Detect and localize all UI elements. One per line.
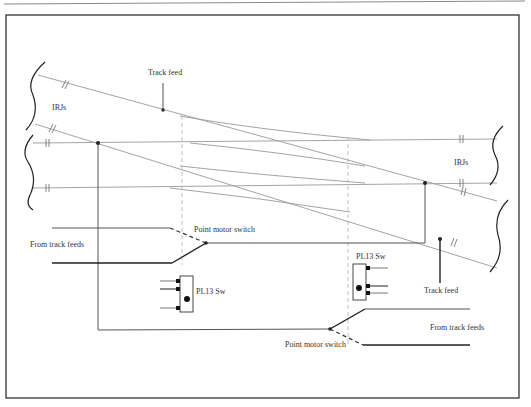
irjs-right-label: IRJs [454, 158, 468, 167]
irj-marks [46, 80, 466, 247]
irjs-left-label: IRJs [52, 103, 66, 112]
pl13-switch-right [353, 264, 388, 300]
feed-loop-right [206, 183, 425, 243]
frame-border [6, 15, 519, 398]
track-feed-top-label: Track feed [148, 68, 182, 77]
crossover-curve-1 [180, 116, 370, 140]
point-motor-switch-left-label: Point motor switch [194, 225, 255, 234]
pl13-switch-left [160, 276, 193, 312]
pl13-switch-right-label: PL13 Sw [356, 252, 386, 261]
brace-right-lower [490, 200, 508, 272]
track-feed-bottom-node [438, 237, 442, 241]
track-straight-upper [33, 139, 497, 143]
track-feed-top-node [161, 108, 165, 112]
crossing-wiring-diagram: Track feed Track feed IRJs IRJs From tra… [0, 0, 531, 407]
crossover-curve-4 [170, 188, 350, 212]
feed-junction-left-node [96, 141, 100, 145]
pl13-switch-left-label: PL13 Sw [196, 287, 226, 296]
brace-left-lower [25, 135, 34, 210]
top-rule [4, 1, 525, 4]
brace-right-upper [490, 126, 503, 185]
from-track-feeds-right-label: From track feeds [430, 323, 484, 332]
crossover-curve-2 [190, 143, 365, 166]
track-diagonal-lower [35, 124, 497, 268]
brace-left-upper [26, 62, 45, 130]
feed-junction-right-node [423, 181, 427, 185]
track-straight-lower [33, 183, 497, 188]
feed-loop-left [98, 143, 330, 330]
from-track-feeds-left-label: From track feeds [30, 240, 84, 249]
crossover-curve-3 [180, 166, 365, 183]
track-feed-bottom-label: Track feed [424, 286, 458, 295]
track-diagonal-upper [38, 75, 497, 201]
point-motor-switch-right-label: Point motor switch [285, 340, 346, 349]
